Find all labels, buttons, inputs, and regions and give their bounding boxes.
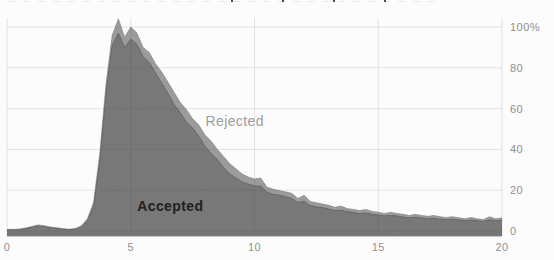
y-tick-label-60: 60 [510, 103, 523, 115]
y-tick-label-40: 40 [510, 143, 523, 155]
x-tick-label-15: 15 [364, 241, 392, 253]
y-tick-label-0: 0 [510, 225, 517, 237]
x-tick-label-10: 10 [241, 241, 269, 253]
y-tick-label-100: 100% [510, 21, 540, 33]
x-tick-label-0: 0 [0, 241, 21, 253]
accepted-series-label: Accepted [137, 198, 203, 214]
y-tick-label-80: 80 [510, 62, 523, 74]
rejected-series-label: Rejected [205, 113, 263, 129]
x-tick-label-20: 20 [488, 241, 516, 253]
y-tick-label-20: 20 [510, 184, 523, 196]
stacked-area-chart [0, 0, 554, 260]
x-tick-label-5: 5 [117, 241, 145, 253]
area-chart-panel: 100% 80 60 40 20 0 0 5 10 15 20 Rejected… [0, 0, 554, 260]
